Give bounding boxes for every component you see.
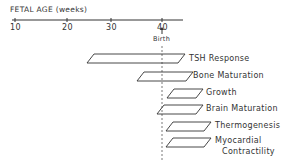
label-brain-maturation: Brain Maturation	[206, 104, 278, 113]
bars-group	[87, 54, 211, 147]
label-contractility: Contractility	[222, 147, 275, 156]
bar-1	[137, 72, 193, 81]
label-tsh-response: TSH Response	[189, 54, 250, 63]
tick-20: 20	[62, 23, 73, 32]
label-bone-maturation: Bone Maturation	[193, 71, 264, 80]
bar-3	[157, 105, 203, 114]
axis-title: FETAL AGE (weeks)	[10, 5, 87, 14]
tick-10: 10	[10, 23, 21, 32]
bar-0	[87, 54, 185, 63]
birth-label: Birth	[153, 35, 170, 43]
bar-4	[166, 122, 211, 131]
tick-30: 30	[106, 23, 117, 32]
label-growth: Growth	[206, 88, 237, 97]
fetal-development-diagram: FETAL AGE (weeks) 10 20 30 40 Birth TSH …	[0, 0, 289, 168]
bar-5	[166, 138, 211, 147]
label-myocardial: Myocardial	[215, 136, 261, 145]
tick-40: 40	[157, 23, 168, 32]
label-thermogenesis: Thermogenesis	[215, 121, 280, 130]
bar-2	[167, 89, 203, 98]
